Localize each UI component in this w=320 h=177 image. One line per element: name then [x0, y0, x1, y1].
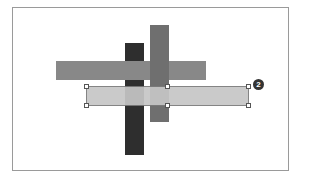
selection-handle-top-right[interactable]	[246, 84, 251, 89]
selection-handle-bottom-left[interactable]	[84, 103, 89, 108]
selection-handle-bottom-right[interactable]	[246, 103, 251, 108]
selection-handle-top-left[interactable]	[84, 84, 89, 89]
selection-handle-top-middle[interactable]	[165, 84, 170, 89]
selection-handle-bottom-middle[interactable]	[165, 103, 170, 108]
gray-horizontal-bar[interactable]	[56, 61, 206, 80]
callout-number-badge: 2	[253, 79, 264, 90]
